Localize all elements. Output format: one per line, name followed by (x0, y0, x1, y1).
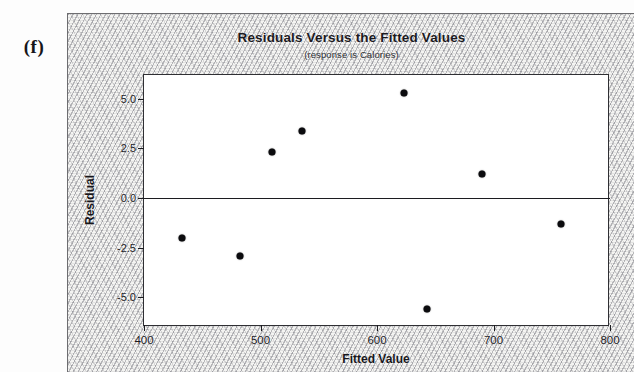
figure-label: (f) (8, 36, 60, 58)
x-tick-label: 700 (484, 334, 503, 346)
scanned-page: (f) Residuals Versus the Fitted Values (… (0, 0, 634, 372)
y-tick-mark (138, 198, 144, 199)
data-point (299, 127, 306, 134)
y-tick-label: 0.0 (121, 192, 136, 204)
data-point (478, 171, 485, 178)
y-tick-label: 2.5 (121, 142, 136, 154)
y-axis-label: Residual (83, 175, 97, 225)
zero-reference-line (144, 198, 610, 199)
x-tick-mark (494, 325, 495, 331)
y-tick-mark (138, 99, 144, 100)
x-tick-mark (610, 325, 611, 331)
data-point (424, 306, 431, 313)
x-tick-mark (144, 325, 145, 331)
y-tick-label: 5.0 (121, 93, 136, 105)
y-tick-mark (138, 148, 144, 149)
y-tick-mark (138, 248, 144, 249)
data-point (400, 89, 407, 96)
y-tick-mark (138, 297, 144, 298)
data-point (558, 220, 565, 227)
x-tick-label: 400 (134, 334, 153, 346)
x-axis-label: Fitted Value (143, 352, 609, 366)
x-tick-label: 500 (251, 334, 270, 346)
x-tick-label: 800 (600, 334, 619, 346)
x-tick-mark (261, 325, 262, 331)
data-point (236, 252, 243, 259)
data-point (179, 234, 186, 241)
x-tick-label: 600 (367, 334, 386, 346)
x-tick-mark (377, 325, 378, 331)
y-tick-label: -5.0 (117, 291, 136, 303)
chart-title: Residuals Versus the Fitted Values (68, 30, 634, 45)
chart-subtitle: (response is Calories) (68, 49, 634, 60)
data-point (269, 149, 276, 156)
chart-panel: Residuals Versus the Fitted Values (resp… (67, 13, 634, 372)
y-tick-label: -2.5 (117, 242, 136, 254)
plot-area: 5.02.50.0-2.5-5.0 400500600700800 (143, 74, 609, 326)
